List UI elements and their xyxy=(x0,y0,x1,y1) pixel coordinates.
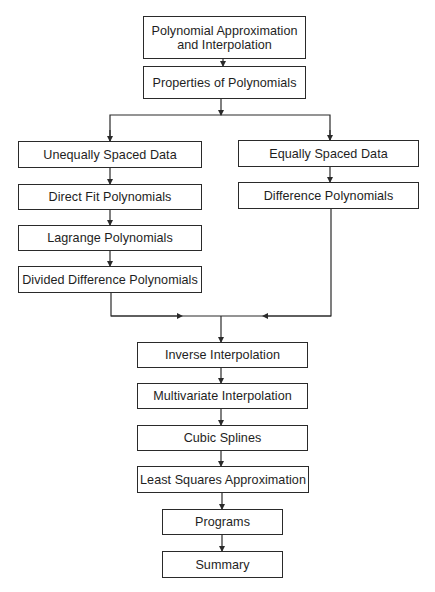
node-least-squares-approximation: Least Squares Approximation xyxy=(137,466,309,493)
node-lagrange-polynomials: Lagrange Polynomials xyxy=(18,225,202,251)
node-label: Least Squares Approximation xyxy=(140,473,306,487)
node-label: Programs xyxy=(195,515,250,529)
node-divided-difference-polynomials: Divided Difference Polynomials xyxy=(18,266,202,293)
node-label: Multivariate Interpolation xyxy=(153,389,292,403)
node-direct-fit-polynomials: Direct Fit Polynomials xyxy=(18,184,202,210)
node-inverse-interpolation: Inverse Interpolation xyxy=(137,342,308,368)
flowchart: Polynomial Approximation and Interpolati… xyxy=(0,0,435,592)
node-cubic-splines: Cubic Splines xyxy=(137,425,308,451)
node-equally-spaced-data: Equally Spaced Data xyxy=(238,140,419,167)
node-difference-polynomials: Difference Polynomials xyxy=(238,182,419,209)
node-label: Difference Polynomials xyxy=(264,189,394,203)
node-label: Unequally Spaced Data xyxy=(43,148,176,162)
node-title-line1: Polynomial Approximation xyxy=(151,24,297,38)
node-polynomial-approximation: Polynomial Approximation and Interpolati… xyxy=(143,16,306,59)
node-programs: Programs xyxy=(162,509,283,535)
node-label: Direct Fit Polynomials xyxy=(49,190,172,204)
node-title-line2: and Interpolation xyxy=(177,38,272,52)
node-label: Cubic Splines xyxy=(184,431,262,445)
node-label: Lagrange Polynomials xyxy=(47,231,173,245)
node-unequally-spaced-data: Unequally Spaced Data xyxy=(18,141,202,168)
node-label: Inverse Interpolation xyxy=(165,348,280,362)
node-label: Divided Difference Polynomials xyxy=(22,273,198,287)
node-summary: Summary xyxy=(162,551,283,578)
node-label: Equally Spaced Data xyxy=(269,147,388,161)
branch-line xyxy=(110,115,330,141)
node-properties-of-polynomials: Properties of Polynomials xyxy=(143,66,306,99)
node-label: Summary xyxy=(195,558,249,572)
node-label: Properties of Polynomials xyxy=(152,76,296,90)
node-multivariate-interpolation: Multivariate Interpolation xyxy=(137,383,308,409)
